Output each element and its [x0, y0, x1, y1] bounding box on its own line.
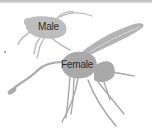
female-label: Female	[61, 59, 93, 70]
female-wasp-icon	[6, 23, 143, 126]
wasp-illustration: Male Female	[0, 0, 152, 135]
marker-dot	[4, 51, 6, 53]
male-wasp-icon	[18, 12, 92, 58]
male-label: Male	[38, 21, 59, 32]
